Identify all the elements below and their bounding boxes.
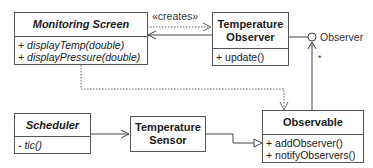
- class-name-line: Temperature: [135, 121, 201, 134]
- class-name: Monitoring Screen: [15, 13, 147, 37]
- observer-to-screen-association: [148, 31, 212, 39]
- class-scheduler[interactable]: Scheduler - tic(): [14, 113, 91, 154]
- class-name-line: Observer: [226, 31, 274, 44]
- class-name: Temperature Sensor: [131, 117, 205, 151]
- creates-stereotype-label: «creates»: [152, 10, 198, 22]
- class-name-line: Sensor: [149, 134, 186, 147]
- operation: + notifyObservers(): [266, 149, 360, 161]
- creates-dependency: [147, 23, 211, 31]
- class-observable[interactable]: Observable + addObserver() + notifyObser…: [262, 110, 364, 163]
- observer-interface-label: Observer: [320, 31, 363, 43]
- class-monitoring-screen[interactable]: Monitoring Screen + displayTemp(double) …: [14, 12, 148, 65]
- class-operations: + update(): [213, 49, 288, 65]
- scheduler-to-sensor-association: [90, 130, 129, 138]
- class-operations: - tic(): [15, 137, 90, 153]
- class-name-line: Temperature: [218, 18, 284, 31]
- operation: + update(): [216, 51, 285, 63]
- operation: + displayPressure(double): [18, 51, 144, 63]
- class-name: Observable: [263, 111, 363, 135]
- class-temperature-observer[interactable]: Temperature Observer + update(): [212, 12, 289, 66]
- observer-interface-lollipop: [288, 33, 316, 41]
- observable-to-interface-association: [308, 42, 316, 110]
- operation: - tic(): [18, 139, 87, 151]
- sensor-to-observable-generalization: [205, 134, 262, 147]
- class-temperature-sensor[interactable]: Temperature Sensor: [130, 116, 206, 152]
- screen-to-observable-dependency: [81, 65, 288, 110]
- class-name: Scheduler: [15, 114, 90, 137]
- operation: + addObserver(): [266, 137, 360, 149]
- class-operations: + displayTemp(double) + displayPressure(…: [15, 37, 147, 65]
- multiplicity-label: *: [318, 53, 322, 63]
- operation: + displayTemp(double): [18, 39, 144, 51]
- class-name: Temperature Observer: [213, 13, 288, 49]
- class-operations: + addObserver() + notifyObservers(): [263, 135, 363, 163]
